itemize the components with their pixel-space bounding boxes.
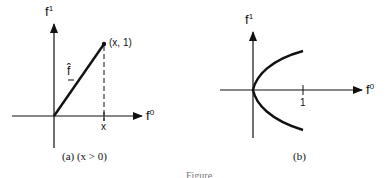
panel-a-y-axis-label: f1 [45,4,53,19]
panel-b-x-axis-label: f0 [366,82,374,97]
panel-b-axes [220,32,362,138]
panel-a-caption: (a) (x > 0) [62,150,107,162]
panel-b-caption: (b) [293,150,306,162]
panel-b-x-tick-label: 1 [300,97,306,108]
panel-a-x-axis-label: f0 [146,108,154,123]
diagram-canvas [0,0,390,178]
panel-b-y-axis-label: f1 [245,12,253,27]
panel-a-vector-label: f̂ [67,64,70,78]
panel-a-vector-line [54,44,104,116]
figure-caption-fragment: Figure [186,170,212,178]
panel-a-point-label: (x, 1) [109,37,132,48]
panel-a-point [102,42,106,46]
panel-a-x-tick-label: x [101,121,106,132]
